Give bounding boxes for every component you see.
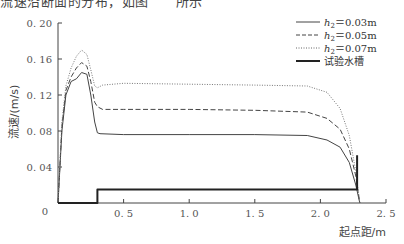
x-tick-label: 2. 0 [311, 208, 330, 219]
legend-label: h2＝0.07m [324, 43, 377, 56]
series-group [58, 50, 360, 203]
x-tick-label: 0. 5 [114, 208, 133, 219]
y-axis-title: 流速/(m/s) [7, 85, 21, 139]
x-axis-title: 起点距/m [339, 226, 386, 239]
legend-item-tank: 试验水槽 [296, 55, 364, 67]
y-tick-label: 0 [42, 206, 48, 217]
y-tick-label: 0. 12 [27, 90, 52, 101]
y-ticks: 00. 040. 080. 120. 160. 20 [27, 18, 62, 217]
legend-item-h005: h2＝0.05m [296, 30, 377, 43]
legend-label: h2＝0.03m [324, 17, 377, 30]
y-tick-label: 0. 04 [27, 162, 52, 173]
velocity-chart: 00. 040. 080. 120. 160. 20 0. 51. 01. 52… [0, 0, 404, 244]
series-line-0 [58, 73, 360, 204]
legend-item-h007: h2＝0.07m [296, 43, 377, 56]
y-tick-label: 0. 20 [27, 18, 52, 29]
series-line-1 [58, 63, 360, 203]
y-tick-label: 0. 16 [27, 54, 52, 65]
legend: h2＝0.03m h2＝0.05m h2＝0.07m 试验水槽 [296, 17, 377, 67]
series-line-2 [58, 50, 360, 203]
legend-label: 试验水槽 [324, 55, 364, 67]
x-tick-label: 2. 5 [376, 208, 395, 219]
y-tick-label: 0. 08 [27, 126, 52, 137]
legend-label: h2＝0.05m [324, 30, 377, 43]
series-line-3 [58, 155, 357, 203]
x-ticks: 0. 51. 01. 52. 02. 5 [114, 199, 395, 219]
x-tick-label: 1. 0 [180, 208, 199, 219]
legend-item-h003: h2＝0.03m [296, 17, 377, 30]
x-tick-label: 1. 5 [245, 208, 264, 219]
